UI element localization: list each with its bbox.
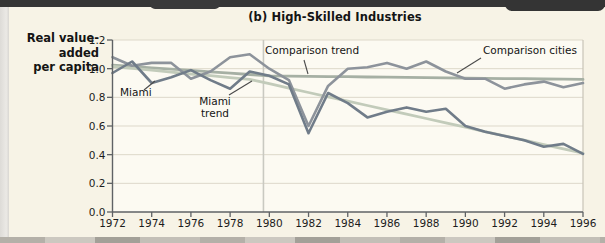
x-tick-label: 1986 bbox=[370, 217, 404, 229]
x-tick-label: 1994 bbox=[527, 217, 561, 229]
x-tick-label: 1982 bbox=[292, 217, 326, 229]
x-tick-label: 1974 bbox=[135, 217, 169, 229]
x-tick-label: 1996 bbox=[566, 217, 600, 229]
y-tick-label: 0.2 bbox=[82, 177, 106, 189]
x-tick-label: 1976 bbox=[174, 217, 208, 229]
x-tick-label: 1990 bbox=[448, 217, 482, 229]
y-tick-label: 0.6 bbox=[82, 120, 106, 132]
x-tick-label: 1980 bbox=[252, 217, 286, 229]
y-tick-label: 0.4 bbox=[82, 149, 106, 161]
y-tick-label: 0.8 bbox=[82, 91, 106, 103]
y-tick-label: 1.2 bbox=[82, 34, 106, 46]
series-label-miami-trend: Miami trend bbox=[193, 96, 237, 119]
x-tick-label: 1984 bbox=[331, 217, 365, 229]
x-tick-label: 1992 bbox=[488, 217, 522, 229]
x-tick-label: 1978 bbox=[213, 217, 247, 229]
y-tick-label: 1.0 bbox=[82, 63, 106, 75]
series-label-comparison-trend: Comparison trend bbox=[265, 45, 361, 57]
x-tick-label: 1972 bbox=[96, 217, 130, 229]
scanned-figure-page: (b) High-Skilled Industries Real value- … bbox=[0, 0, 605, 243]
x-tick-label: 1988 bbox=[409, 217, 443, 229]
series-label-miami: Miami bbox=[120, 87, 160, 99]
series-label-comparison-cities: Comparison cities bbox=[483, 45, 579, 57]
